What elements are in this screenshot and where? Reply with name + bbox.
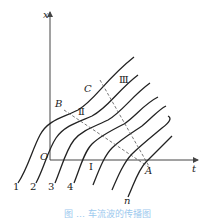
wave-line-CA (100, 80, 150, 168)
curve-label-3: 3 (48, 181, 54, 192)
curve-label-4: 4 (67, 181, 73, 192)
curve-label-2: 2 (30, 181, 36, 192)
t-axis-label: t (192, 163, 197, 174)
region-II-label: Ⅱ (78, 106, 85, 117)
vehicle-trajectories (18, 57, 172, 197)
origin-label: O (40, 151, 48, 162)
x-axis-label: x (43, 9, 49, 20)
point-B-label: B (54, 98, 62, 109)
trajectory-diagram: x t O B C A Ⅰ Ⅱ Ⅲ 1 2 3 4 n (0, 0, 215, 219)
curve-label-1: 1 (13, 181, 19, 192)
point-C-label: C (84, 83, 92, 94)
region-III-label: Ⅲ (119, 74, 129, 85)
region-I-label: Ⅰ (89, 161, 93, 172)
point-A-label: A (144, 165, 152, 176)
trajectory-5 (93, 106, 166, 185)
trajectory-1 (18, 57, 134, 183)
trajectory-3 (55, 83, 150, 183)
curve-label-n: n (124, 195, 130, 206)
figure-caption: 图 … 车流波的传播图 (0, 207, 215, 219)
wave-line-BA (64, 110, 150, 168)
